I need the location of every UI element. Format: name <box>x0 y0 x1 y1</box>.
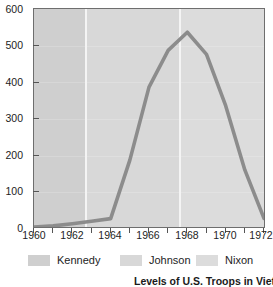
x-tick-label: 1972 <box>249 230 272 241</box>
legend-swatch-kennedy <box>28 255 50 266</box>
y-tick-mark <box>33 155 39 156</box>
y-tick-label: 400 <box>5 77 23 88</box>
legend-label: Nixon <box>225 255 253 266</box>
x-tick-label: 1966 <box>136 230 159 241</box>
troop-level-line-series <box>34 9 264 227</box>
y-tick-label: 500 <box>5 40 23 51</box>
y-tick-mark <box>33 118 39 119</box>
legend-swatch-nixon <box>196 255 218 266</box>
legend-item-johnson: Johnson <box>120 252 191 268</box>
x-tick-label: 1970 <box>213 230 236 241</box>
x-tick-label: 1962 <box>60 230 83 241</box>
legend-label: Johnson <box>149 255 191 266</box>
chart-legend: Kennedy Johnson Nixon <box>0 252 273 270</box>
chart-caption: Levels of U.S. Troops in Vietnam <box>134 276 273 287</box>
y-tick-label: 600 <box>5 4 23 15</box>
y-tick-label: 100 <box>5 186 23 197</box>
legend-item-nixon: Nixon <box>196 252 253 268</box>
x-axis: 1960 1962 1964 1966 1968 1970 1972 <box>0 230 273 246</box>
x-tick-label: 1960 <box>22 230 45 241</box>
plot-area <box>33 8 265 228</box>
x-tick-label: 1968 <box>175 230 198 241</box>
y-axis: 600 500 400 300 200 100 0 <box>0 0 31 236</box>
legend-item-kennedy: Kennedy <box>28 252 100 268</box>
y-tick-mark <box>33 191 39 192</box>
y-tick-mark <box>33 82 39 83</box>
legend-label: Kennedy <box>57 255 100 266</box>
y-tick-label: 300 <box>5 113 23 124</box>
y-tick-label: 200 <box>5 150 23 161</box>
y-tick-mark <box>33 45 39 46</box>
legend-swatch-johnson <box>120 255 142 266</box>
x-tick-label: 1964 <box>98 230 121 241</box>
